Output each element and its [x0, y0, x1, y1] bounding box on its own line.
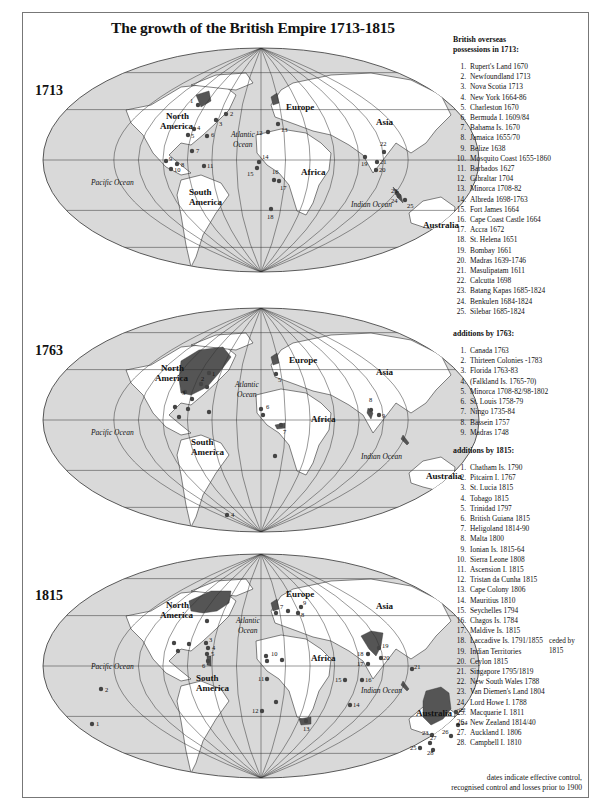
legend-item-text: Gibraltar 1704 — [470, 174, 513, 184]
legend-item-number: 7. — [453, 524, 466, 534]
svg-text:America: America — [155, 373, 188, 383]
legend-item: 20.Madras 1639-1746 — [453, 256, 589, 266]
legend-item-number: 24. — [453, 698, 466, 708]
legend-item-text: New York 1664-86 — [470, 93, 526, 103]
svg-text:Asia: Asia — [376, 117, 394, 127]
possession-marker — [274, 611, 278, 615]
possession-marker — [177, 415, 181, 419]
legend-item: 15.Fort James 1664 — [453, 205, 589, 215]
legend-item-number: 4. — [453, 377, 466, 387]
svg-text:South: South — [191, 437, 214, 447]
legend-item-number: 3. — [453, 483, 466, 493]
svg-text:2: 2 — [105, 686, 108, 693]
svg-text:12: 12 — [252, 707, 259, 714]
legend-item: 25.Silebar 1685-1824 — [453, 307, 589, 317]
legend-item: 7.Bahama Is. 1670 — [453, 123, 589, 133]
legend-item: 18.St. Helena 1651 — [453, 235, 589, 245]
legend-item: 28.Campbell I. 1810 — [453, 738, 589, 748]
svg-text:12: 12 — [256, 129, 263, 136]
possession-marker — [172, 641, 176, 645]
svg-text:Indian Ocean: Indian Ocean — [350, 200, 392, 209]
legend-item-number: 15. — [453, 205, 466, 215]
legend-item-text: Trinidad 1797 — [470, 504, 512, 514]
legend-item-text: Bermuda I. 1609/84 — [470, 113, 529, 123]
legend-item-text: Bassein 1757 — [470, 418, 510, 428]
legend-item-text: Bahama Is. 1670 — [470, 123, 520, 133]
svg-text:Pacific Ocean: Pacific Ocean — [90, 662, 134, 671]
legend-item-text: St. Helena 1651 — [470, 235, 517, 245]
legend-list-1815: 1.Chatham Is. 17902.Pitcairn I. 17673.St… — [453, 463, 589, 749]
svg-text:15: 15 — [247, 170, 254, 177]
svg-text:5: 5 — [191, 132, 194, 139]
svg-text:America: America — [160, 610, 193, 620]
svg-text:24: 24 — [391, 197, 398, 204]
legend-item-text: Madras 1639-1746 — [470, 256, 526, 266]
legend-item-text: Laccadive Is. 1791/1855 — [470, 636, 543, 646]
svg-text:17: 17 — [357, 660, 364, 667]
legend-item-number: 28. — [453, 738, 466, 748]
svg-text:Indian Ocean: Indian Ocean — [360, 686, 402, 695]
legend-item-text: Heligoland 1814-90 — [470, 524, 529, 534]
legend-item-text: New South Wales 1788 — [470, 677, 539, 687]
svg-text:11: 11 — [207, 162, 213, 169]
legend-item-number: 10. — [453, 555, 466, 565]
svg-text:1: 1 — [190, 97, 193, 104]
legend-item: 9.Madras 1748 — [453, 428, 589, 438]
legend-item-text: Thirteen Colonies -1783 — [470, 356, 542, 366]
legend-item-number: 18. — [453, 636, 466, 646]
legend-item: 23.Batang Kapas 1685-1824 — [453, 286, 589, 296]
legend-item-number: 7. — [453, 407, 466, 417]
legend-item: 22.New South Wales 1788 — [453, 677, 589, 687]
legend-item: 21.Singapore 1795/1819 — [453, 667, 589, 677]
svg-text:Atlantic: Atlantic — [235, 616, 260, 625]
legend-item-text: Cape Coast Castle 1664 — [470, 215, 541, 225]
svg-text:27: 27 — [430, 734, 437, 741]
legend-item-number: 2. — [453, 72, 466, 82]
svg-text:20: 20 — [383, 654, 390, 661]
legend-item-number: 20. — [453, 256, 466, 266]
svg-text:18: 18 — [357, 650, 364, 657]
svg-text:8: 8 — [301, 611, 304, 618]
legend-list-1713: 1.Rupert's Land 16702.Newfoundland 17133… — [453, 62, 589, 317]
possession-marker — [205, 385, 209, 389]
legend-item-text: Malta 1800 — [470, 534, 504, 544]
legend-item-number: 2. — [453, 356, 466, 366]
svg-text:21: 21 — [380, 158, 387, 165]
legend-section-1713: British overseas possessions in 1713: 1.… — [453, 35, 589, 317]
svg-text:Asia: Asia — [376, 601, 394, 611]
legend-item-number: 5. — [453, 103, 466, 113]
legend-item: 19.Bombay 1661 — [453, 246, 589, 256]
legend-item: 1.Rupert's Land 1670 — [453, 62, 589, 72]
legend-item-text: Van Diemen's Land 1804 — [470, 687, 545, 697]
legend-item-text: Calcutta 1698 — [470, 276, 511, 286]
legend-item-text: Ningo 1735-84 — [470, 407, 515, 417]
legend-heading-1815: additions by 1815: — [453, 446, 589, 456]
legend-item: 6.Bermuda I. 1609/84 — [453, 113, 589, 123]
svg-text:America: America — [196, 683, 229, 693]
svg-text:North: North — [166, 111, 189, 121]
legend-item-text: Canada 1763 — [470, 346, 509, 356]
world-map-1713: North America South America Europe Asia … — [31, 35, 483, 285]
svg-text:10: 10 — [174, 166, 181, 173]
legend-item: 5.Trinidad 1797 — [453, 504, 589, 514]
legend-item-number: 12. — [453, 575, 466, 585]
legend-item-number: 14. — [453, 195, 466, 205]
legend-item-number: 1. — [453, 62, 466, 72]
svg-text:28: 28 — [427, 749, 434, 756]
legend-item-text: Mauritius 1810 — [470, 596, 515, 606]
legend-item-number: 6. — [453, 113, 466, 123]
legend-item: 4.(Falkland Is. 1765-70) — [453, 377, 589, 387]
legend-item-text: St. Louis 1758-79 — [470, 397, 523, 407]
legend-item-text: Masulipatam 1611 — [470, 266, 525, 276]
legend-item: 14.Mauritius 1810 — [453, 596, 589, 606]
legend-item-text: Rupert's Land 1670 — [470, 62, 528, 72]
legend-item: 5.Charleston 1670 — [453, 103, 589, 113]
svg-text:Atlantic: Atlantic — [234, 380, 259, 389]
legend-item-number: 3. — [453, 366, 466, 376]
legend-item: 3.Nova Scotia 1713 — [453, 82, 589, 92]
possession-marker — [173, 405, 177, 409]
svg-text:22: 22 — [380, 140, 387, 147]
legend-item-number: 17. — [453, 225, 466, 235]
legend-item-text: Sierra Leone 1808 — [470, 555, 525, 565]
svg-text:9: 9 — [382, 412, 385, 419]
